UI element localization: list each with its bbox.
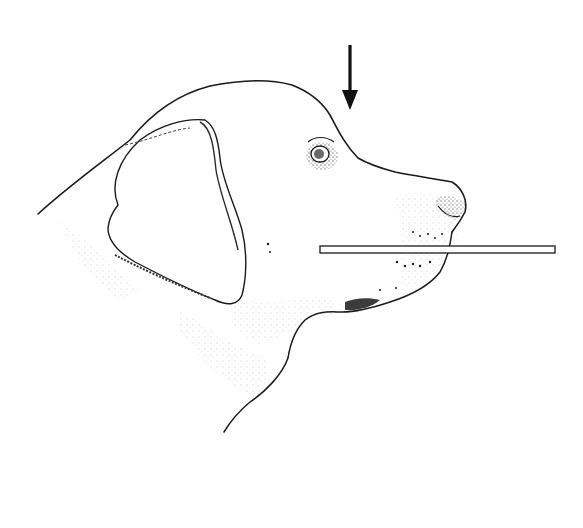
arrow-down-icon <box>342 45 358 110</box>
lip-shadow <box>345 298 380 310</box>
illustration-canvas <box>0 0 583 528</box>
ear <box>108 120 246 304</box>
eye <box>306 138 338 171</box>
straight-edge-bar <box>320 246 555 253</box>
dog-head-illustration <box>0 0 583 528</box>
